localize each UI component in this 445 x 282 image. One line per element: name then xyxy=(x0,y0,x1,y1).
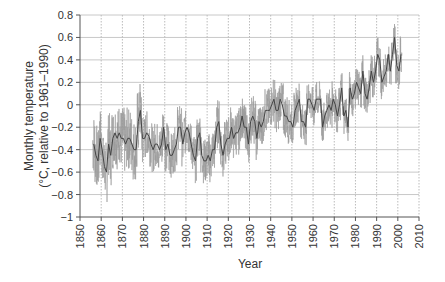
y-axis-title-line-2: (°C, relative to 1961–1990) xyxy=(37,44,51,188)
x-tick-label: 1990 xyxy=(371,224,383,248)
x-tick-label: 1970 xyxy=(328,224,340,248)
x-tick-label: 2000 xyxy=(392,224,404,248)
y-axis-ticks: 0.80.60.40.20−0.2−0.4−0.6−0.8−1 xyxy=(51,9,80,223)
y-tick-label: −0.8 xyxy=(51,189,73,201)
x-tick-label: 1920 xyxy=(222,224,234,248)
x-tick-label: 1870 xyxy=(116,224,128,248)
grid-lines xyxy=(80,15,419,217)
y-axis-title-line-1: Monthly temperature xyxy=(22,61,36,171)
x-tick-label: 1940 xyxy=(265,224,277,248)
y-tick-label: 0.8 xyxy=(58,9,73,21)
y-tick-label: 0.6 xyxy=(58,31,73,43)
x-tick-label: 1980 xyxy=(349,224,361,248)
y-axis-title: Monthly temperature (°C, relative to 196… xyxy=(22,44,51,188)
x-tick-label: 1860 xyxy=(95,224,107,248)
y-tick-label: −0.4 xyxy=(51,144,73,156)
y-tick-label: −1 xyxy=(60,211,73,223)
x-tick-label: 1890 xyxy=(159,224,171,248)
x-axis-title: Year xyxy=(238,257,262,271)
y-tick-label: −0.6 xyxy=(51,166,73,178)
x-tick-label: 1950 xyxy=(286,224,298,248)
y-tick-label: 0.4 xyxy=(58,54,73,66)
y-tick-label: 0.2 xyxy=(58,76,73,88)
x-tick-label: 1930 xyxy=(244,224,256,248)
x-tick-label: 1900 xyxy=(180,224,192,248)
x-tick-label: 1850 xyxy=(74,224,86,248)
y-tick-label: 0 xyxy=(67,99,73,111)
x-tick-label: 1880 xyxy=(138,224,150,248)
x-tick-label: 2010 xyxy=(413,224,425,248)
temperature-line-chart: 0.80.60.40.20−0.2−0.4−0.6−0.8−1 18501860… xyxy=(0,0,445,282)
x-tick-label: 1960 xyxy=(307,224,319,248)
x-tick-label: 1910 xyxy=(201,224,213,248)
y-tick-label: −0.2 xyxy=(51,121,73,133)
x-axis-ticks: 1850186018701880189019001910192019301940… xyxy=(74,217,425,248)
